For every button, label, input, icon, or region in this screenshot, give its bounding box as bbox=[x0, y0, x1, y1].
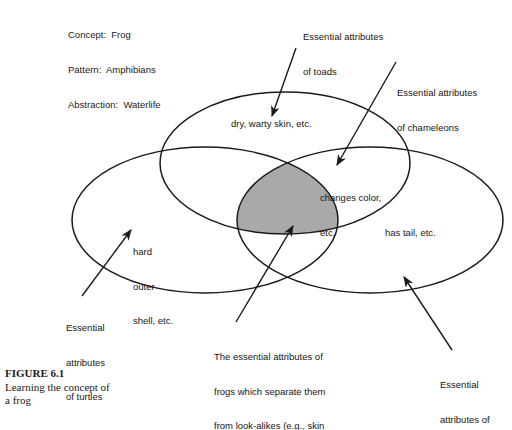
meta-concept: Concept: Frog bbox=[68, 29, 161, 41]
meta-pattern: Pattern: Amphibians bbox=[68, 64, 161, 76]
annotation-frogs-line2: frogs which separate them bbox=[214, 386, 333, 398]
annotation-frogs-line1: The essential attributes of bbox=[214, 351, 333, 363]
annotation-toads: Essential attributes of toads bbox=[303, 8, 383, 100]
set-label-water-snakes: has tail, etc. bbox=[385, 227, 436, 239]
figure-number: FIGURE 6.1 bbox=[5, 367, 140, 381]
annotation-water-snakes: Essential attributes of water snakes bbox=[440, 356, 496, 430]
annotation-chameleons-line1: Essential attributes bbox=[397, 87, 477, 99]
figure-caption-line2: a frog bbox=[5, 394, 140, 408]
annotation-chameleons-line2: of chameleons bbox=[397, 122, 477, 134]
set-label-chameleons: changes color, etc. bbox=[320, 169, 381, 261]
annotation-water-snakes-line1: Essential bbox=[440, 379, 496, 391]
set-label-turtles-line3: shell, etc. bbox=[133, 315, 173, 327]
set-label-turtles-line1: hard bbox=[133, 246, 173, 258]
set-label-toads: dry, warty skin, etc. bbox=[231, 118, 312, 130]
figure-caption: FIGURE 6.1 Learning the concept of a fro… bbox=[5, 367, 140, 408]
set-label-chameleons-line1: changes color, bbox=[320, 192, 381, 204]
annotation-turtles-line1: Essential bbox=[66, 322, 105, 334]
arrow-water-snakes bbox=[404, 277, 452, 350]
annotation-toads-line2: of toads bbox=[303, 66, 383, 78]
set-label-turtles-line2: outer bbox=[133, 281, 173, 293]
annotation-frogs: The essential attributes of frogs which … bbox=[214, 328, 333, 430]
annotation-water-snakes-line2: attributes of bbox=[440, 414, 496, 426]
arrow-toads bbox=[272, 48, 296, 116]
meta-abstraction: Abstraction: Waterlife bbox=[68, 99, 161, 111]
annotation-toads-line1: Essential attributes bbox=[303, 31, 383, 43]
set-label-chameleons-line2: etc. bbox=[320, 227, 381, 239]
annotation-frogs-line3: from look-alikes (e.g., skin bbox=[214, 420, 333, 430]
figure-caption-line1: Learning the concept of bbox=[5, 381, 140, 395]
figure-canvas: Concept: Frog Pattern: Amphibians Abstra… bbox=[0, 0, 512, 430]
set-label-turtles: hard outer shell, etc. bbox=[133, 223, 173, 350]
arrow-turtles bbox=[82, 230, 131, 296]
annotation-chameleons: Essential attributes of chameleons bbox=[397, 64, 477, 156]
concept-meta-block: Concept: Frog Pattern: Amphibians Abstra… bbox=[68, 6, 161, 134]
arrow-frogs bbox=[236, 226, 293, 322]
